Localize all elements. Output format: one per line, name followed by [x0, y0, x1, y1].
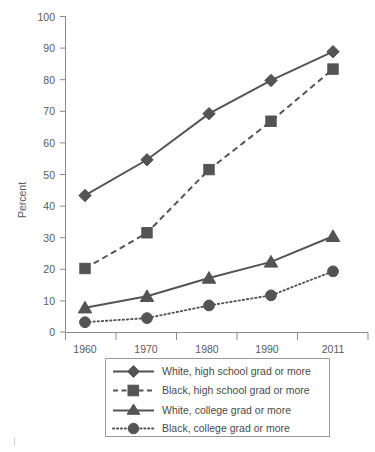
x-tick-label-1990: 1990: [255, 343, 279, 355]
y-axis-title: Percent: [16, 182, 28, 218]
x-tick-label-1960: 1960: [73, 343, 97, 355]
data-point: [142, 313, 153, 324]
x-tick-label-1980: 1980: [195, 343, 219, 355]
data-point: [80, 263, 90, 273]
data-point: [327, 46, 339, 58]
data-point: [142, 228, 152, 238]
legend-label-white-college: White, college grad or more: [162, 404, 291, 416]
x-tick-label-2011: 2011: [322, 343, 345, 355]
data-point: [204, 300, 215, 311]
y-tick-label-90: 90: [43, 42, 55, 54]
series-1: [79, 46, 339, 202]
chart-container: 100 90 80 70 60 50 40 30 20 10 0 Percent…: [0, 0, 375, 452]
data-point: [264, 255, 277, 267]
x-axis-ticks: [66, 333, 369, 341]
series-layer: [78, 46, 339, 328]
legend-label-black-college: Black, college grad or more: [162, 422, 290, 434]
data-point: [265, 74, 277, 86]
data-point: [266, 290, 277, 301]
y-tick-label-100: 100: [37, 11, 55, 23]
legend-label-white-hs: White, high school grad or more: [162, 365, 311, 377]
y-tick-label-50: 50: [43, 169, 55, 181]
y-tick-label-70: 70: [43, 105, 55, 117]
data-point: [204, 164, 214, 174]
legend-label-black-hs: Black, high school grad or more: [162, 384, 310, 396]
y-tick-label-20: 20: [43, 263, 55, 275]
series-2: [80, 64, 338, 274]
y-axis-ticks: [60, 17, 66, 333]
data-point: [328, 64, 338, 74]
y-tick-label-40: 40: [43, 200, 55, 212]
y-tick-label-60: 60: [43, 137, 55, 149]
data-point: [79, 189, 91, 201]
y-tick-label-30: 30: [43, 232, 55, 244]
data-point: [80, 317, 91, 328]
data-point: [266, 116, 276, 126]
y-tick-label-0: 0: [49, 326, 55, 338]
line-chart: 100 90 80 70 60 50 40 30 20 10 0 Percent…: [0, 0, 375, 452]
y-tick-label-80: 80: [43, 74, 55, 86]
y-tick-label-10: 10: [43, 295, 55, 307]
x-tick-label-1970: 1970: [134, 343, 158, 355]
chart-legend: White, high school grad or more Black, h…: [106, 359, 330, 437]
data-point: [326, 230, 339, 242]
data-point: [328, 266, 339, 277]
